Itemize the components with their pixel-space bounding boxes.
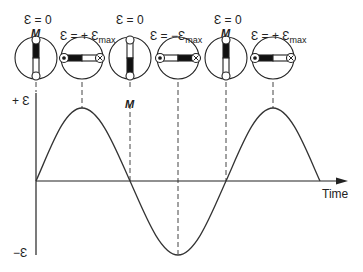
axes <box>36 93 340 255</box>
slip-ring-icon <box>126 72 134 80</box>
x-axis-label: Time <box>322 188 348 200</box>
magnet-label-5: M <box>221 28 230 39</box>
magnet-label-1: M <box>31 28 40 39</box>
slip-ring-icon <box>32 72 40 80</box>
slip-ring-icon <box>126 36 134 44</box>
emf-label-2: Ɛ = + Ɛmax <box>60 30 116 45</box>
y-positive-label: + Ɛ <box>12 95 30 107</box>
slip-ring-icon <box>222 72 230 80</box>
magnet-label-3: M <box>125 99 134 110</box>
emf-label-1: Ɛ = 0 <box>24 14 52 26</box>
rotor-5 <box>205 36 247 80</box>
emf-label-6: Ɛ = + Ɛmax <box>251 30 307 45</box>
emf-label-5: Ɛ = 0 <box>214 14 242 26</box>
rotor-1 <box>15 36 57 80</box>
emf-label-3: Ɛ = 0 <box>116 14 144 26</box>
x-axis-arrow-icon <box>336 178 348 185</box>
emf-label-4: Ɛ = −Ɛmax <box>150 30 202 45</box>
y-negative-label: −Ɛ <box>13 247 27 259</box>
guide-lines <box>36 82 273 254</box>
